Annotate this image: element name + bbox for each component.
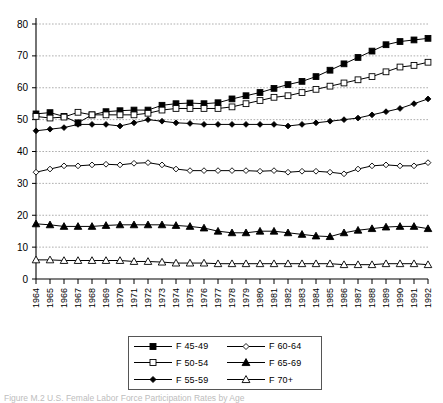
data-point-marker (299, 122, 305, 128)
y-axis-tick-label: 20 (17, 210, 29, 221)
x-axis-tick-label: 1984 (311, 288, 321, 308)
x-axis-tick-label: 1973 (157, 288, 167, 308)
data-point-marker (150, 360, 156, 366)
y-axis-tick-label: 70 (17, 50, 29, 61)
data-point-marker (243, 343, 249, 349)
x-axis-tick-label: 1982 (283, 288, 293, 308)
data-point-marker (257, 90, 263, 96)
data-point-marker (131, 160, 137, 166)
data-point-marker (355, 55, 361, 61)
data-point-marker (131, 112, 137, 118)
x-axis-tick-label: 1978 (227, 288, 237, 308)
x-axis-tick-label: 1981 (269, 288, 279, 308)
data-point-marker (89, 112, 95, 118)
data-point-marker (327, 118, 333, 124)
data-point-marker (383, 162, 389, 168)
data-point-marker (173, 166, 179, 172)
data-point-marker (75, 163, 81, 169)
x-axis-tick-label: 1983 (297, 288, 307, 308)
data-point-marker (425, 160, 431, 166)
data-point-marker (187, 121, 193, 127)
data-point-marker (89, 162, 95, 168)
data-point-marker (355, 166, 361, 172)
data-point-marker (299, 90, 305, 96)
legend-label: F 55-59 (176, 375, 208, 385)
y-axis-tick-label: 80 (17, 19, 29, 30)
data-point-marker (243, 122, 249, 128)
data-point-marker (383, 69, 389, 75)
data-point-marker (150, 377, 156, 383)
data-point-marker (229, 104, 235, 110)
legend-item-f-55-59[interactable]: F 55-59 (132, 374, 225, 385)
data-point-marker (103, 161, 109, 167)
data-point-marker (285, 93, 291, 99)
x-axis-tick-label: 1965 (45, 288, 55, 308)
data-point-marker (201, 168, 207, 174)
legend-label: F 45-49 (176, 341, 208, 351)
data-point-marker (369, 163, 375, 169)
caption-text: Figure M.2 U.S. Female Labor Force Parti… (4, 393, 244, 403)
data-point-marker (313, 74, 319, 80)
data-point-marker (187, 100, 193, 106)
data-point-marker (159, 118, 165, 124)
data-point-marker (47, 115, 53, 121)
data-point-marker (411, 101, 417, 107)
data-point-marker (201, 122, 207, 128)
data-point-marker (369, 74, 375, 80)
x-axis-tick-label: 1971 (129, 288, 139, 308)
data-point-marker (103, 112, 109, 118)
data-point-marker (397, 39, 403, 45)
legend-item-f-45-49[interactable]: F 45-49 (132, 341, 225, 352)
data-point-marker (397, 163, 403, 169)
data-point-marker (33, 114, 39, 120)
x-axis-tick-label: 1968 (87, 288, 97, 308)
data-point-marker (411, 37, 417, 43)
data-point-marker (47, 126, 53, 132)
data-point-marker (243, 168, 249, 174)
data-point-marker (229, 96, 235, 102)
x-axis-tick-label: 1966 (59, 288, 69, 308)
legend-label: F 70+ (269, 375, 293, 385)
legend-item-f-60-64[interactable]: F 60-64 (225, 341, 318, 352)
series-f-65-69 (32, 220, 432, 239)
x-axis-tick-label: 1964 (31, 288, 41, 308)
data-point-marker (257, 98, 263, 104)
data-point-marker (33, 169, 39, 175)
data-point-marker (159, 162, 165, 168)
series-f-60-64 (33, 160, 431, 177)
data-point-marker (285, 169, 291, 175)
data-point-marker (215, 168, 221, 174)
data-point-marker (383, 109, 389, 115)
legend-label: F 60-64 (269, 341, 301, 351)
data-point-marker (285, 123, 291, 129)
data-point-marker (103, 122, 109, 128)
data-point-marker (425, 96, 431, 102)
data-point-marker (341, 171, 347, 177)
legend-item-f-50-54[interactable]: F 50-54 (132, 357, 225, 368)
x-axis-tick-label: 1986 (339, 288, 349, 308)
data-point-marker (341, 80, 347, 86)
data-point-marker (271, 85, 277, 91)
legend-item-f-70[interactable]: F 70+ (225, 374, 318, 385)
data-point-marker (61, 125, 67, 131)
data-point-marker (173, 106, 179, 112)
data-point-marker (32, 220, 40, 227)
data-point-marker (369, 48, 375, 54)
data-point-marker (425, 59, 431, 65)
x-axis-tick-label: 1977 (213, 288, 223, 308)
x-axis-tick-label: 1979 (241, 288, 251, 308)
data-point-marker (285, 82, 291, 88)
legend-label: F 65-69 (269, 358, 301, 368)
data-point-marker (341, 61, 347, 67)
data-point-marker (47, 166, 53, 172)
data-point-marker (257, 168, 263, 174)
legend-item-f-65-69[interactable]: F 65-69 (225, 357, 318, 368)
data-point-marker (150, 343, 156, 349)
y-axis-tick-label: 60 (17, 82, 29, 93)
data-point-marker (117, 162, 123, 168)
data-point-marker (313, 120, 319, 126)
data-point-marker (327, 83, 333, 89)
data-point-marker (145, 160, 151, 166)
data-point-marker (313, 86, 319, 92)
